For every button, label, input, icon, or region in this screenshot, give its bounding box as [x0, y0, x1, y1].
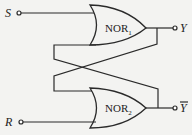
- input-r-terminal: [19, 120, 23, 124]
- output-y-terminal: [173, 26, 177, 30]
- output-y-label: Y: [180, 21, 188, 35]
- output-ybar-terminal: [173, 106, 177, 110]
- input-r-label: R: [4, 115, 13, 129]
- input-s-terminal: [17, 11, 21, 15]
- input-s-label: S: [5, 6, 11, 20]
- output-ybar-label: Y: [180, 101, 188, 115]
- sr-latch-diagram: S NOR1 Y NOR2 Y R: [0, 0, 192, 135]
